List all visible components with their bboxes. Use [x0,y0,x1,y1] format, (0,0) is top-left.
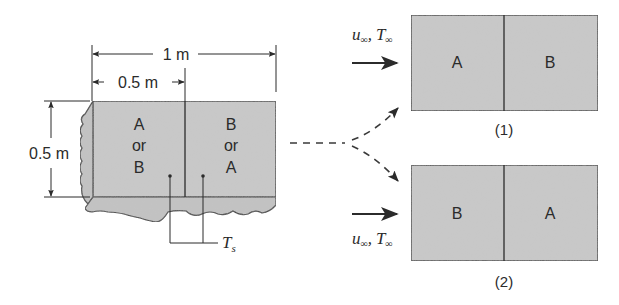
dimension-height-label: 0.5 m [29,145,69,162]
dimension-length-label: 1 m [163,46,190,63]
right-plate-label-1: B [226,116,237,133]
dimension-half-length-label: 0.5 m [118,74,158,91]
block-side-face [80,101,93,204]
flow-label-1: u∞,T∞ [352,25,393,45]
surface-temperature-label: Ts [222,233,236,254]
block-bottom-face [85,197,276,222]
left-plate-label-1: A [134,116,145,133]
config-2-right-label: A [545,205,556,222]
config-1-left-label: A [452,54,463,71]
left-plate-label-2: or [132,137,147,154]
right-plate-label-3: A [226,159,237,176]
config-2-left-label: B [452,205,463,222]
dashed-arrow-to-config-1 [352,108,398,140]
config-1-right-label: B [545,54,556,71]
source-block: A or B B or A Ts [80,101,276,254]
flow-label-2: u∞,T∞ [352,229,393,249]
right-plate-label-2: or [224,137,239,154]
configuration-2: u∞,T∞ B A (2) [352,165,598,290]
config-2-caption: (2) [495,273,513,290]
configuration-1: u∞,T∞ A B (1) [352,15,598,138]
config-1-caption: (1) [495,121,513,138]
heat-transfer-diagram: A or B B or A Ts 1 m 0.5 m 0.5 m [0,0,619,305]
configuration-split-arrows [290,108,398,181]
dashed-arrow-to-config-2 [352,146,398,181]
left-plate-label-3: B [134,159,145,176]
